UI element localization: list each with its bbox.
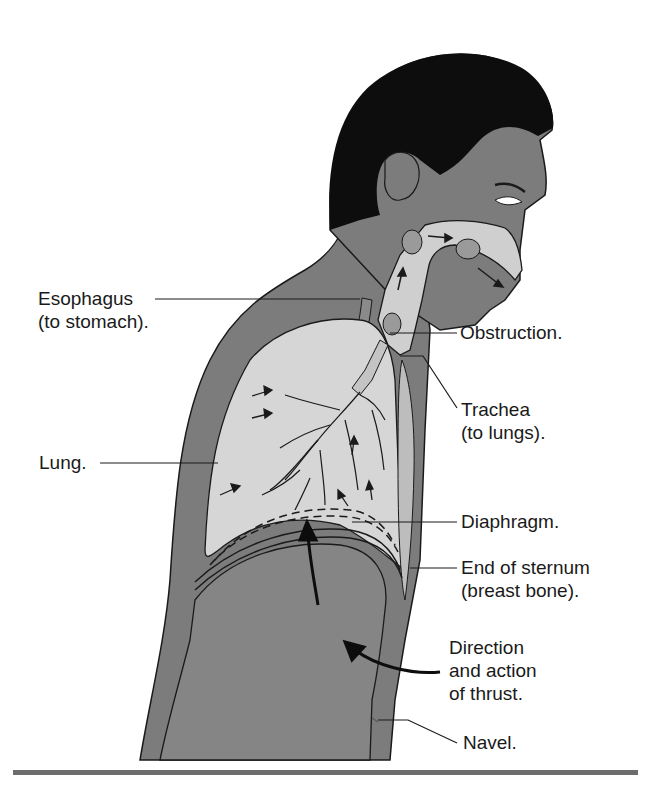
label-esophagus-line2: (to stomach). — [38, 310, 149, 333]
label-lung-line1: Lung. — [39, 451, 87, 474]
obstruction-blob — [383, 313, 401, 335]
label-obstruction: Obstruction. — [460, 321, 562, 344]
label-sternum-line1: End of sternum — [461, 556, 590, 579]
airway-blob-upper — [402, 230, 422, 254]
airway-blob-front — [456, 239, 480, 259]
label-thrust-line1: Direction — [449, 636, 537, 659]
label-trachea: Trachea (to lungs). — [461, 398, 545, 444]
label-thrust-line3: of thrust. — [449, 682, 537, 705]
label-diaphragm-line1: Diaphragm. — [461, 510, 559, 533]
label-obstruction-line1: Obstruction. — [460, 321, 562, 344]
label-diaphragm: Diaphragm. — [461, 510, 559, 533]
label-sternum: End of sternum (breast bone). — [461, 556, 590, 602]
label-trachea-line2: (to lungs). — [461, 421, 545, 444]
label-trachea-line1: Trachea — [461, 398, 545, 421]
bottom-divider — [13, 770, 638, 775]
label-esophagus-line1: Esophagus — [38, 287, 149, 310]
heimlich-anatomy-diagram — [0, 0, 651, 786]
label-sternum-line2: (breast bone). — [461, 579, 590, 602]
label-lung: Lung. — [39, 451, 87, 474]
label-navel: Navel. — [463, 731, 517, 754]
label-thrust-line2: and action — [449, 659, 537, 682]
label-navel-line1: Navel. — [463, 731, 517, 754]
label-thrust: Direction and action of thrust. — [449, 636, 537, 705]
label-esophagus: Esophagus (to stomach). — [38, 287, 149, 333]
